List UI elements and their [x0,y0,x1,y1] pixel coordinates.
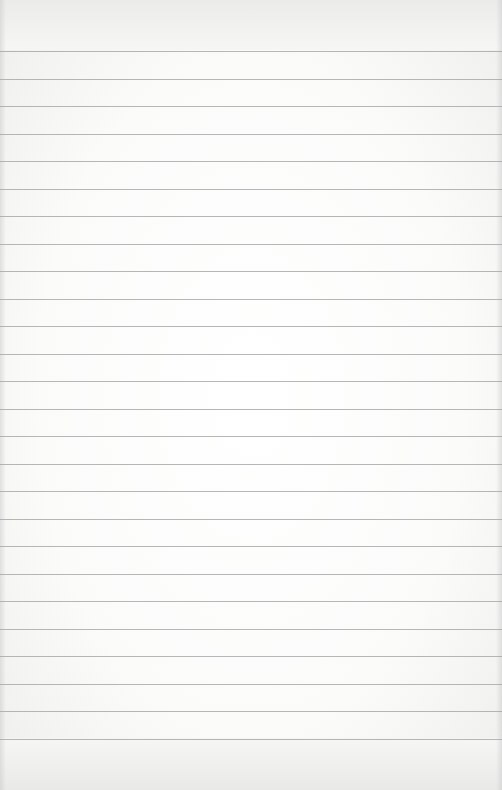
ruled-line [0,134,502,135]
ruled-line [0,464,502,465]
ruled-line [0,189,502,190]
ruled-line [0,354,502,355]
ruled-line [0,326,502,327]
ruled-line [0,629,502,630]
ruled-line [0,739,502,740]
bottom-margin [0,738,502,790]
right-edge-shadow [496,0,502,790]
ruled-line [0,216,502,217]
ruled-line [0,684,502,685]
ruled-line [0,491,502,492]
ruled-line [0,519,502,520]
ruled-line [0,79,502,80]
ruled-line [0,244,502,245]
top-margin [0,0,502,50]
ruled-line [0,381,502,382]
ruled-line [0,656,502,657]
ruled-line [0,51,502,52]
left-edge-shadow [0,0,6,790]
ruled-line [0,436,502,437]
ruled-line [0,601,502,602]
ruled-line [0,711,502,712]
ruled-line [0,574,502,575]
lined-paper-sheet [0,0,502,790]
ruled-line [0,271,502,272]
ruled-line [0,106,502,107]
ruled-line [0,546,502,547]
ruled-line [0,299,502,300]
ruled-line [0,409,502,410]
ruled-line [0,161,502,162]
